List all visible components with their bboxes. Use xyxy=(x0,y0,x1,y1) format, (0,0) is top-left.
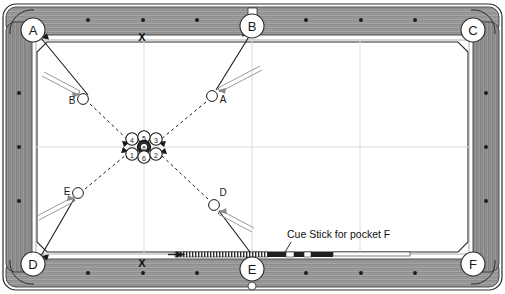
ball-label-d: D xyxy=(219,187,226,198)
ball-label-b: B xyxy=(69,95,76,106)
pocket-label-b: B xyxy=(248,19,257,34)
ball-number-2: 2 xyxy=(154,152,158,159)
pocket-label-d: D xyxy=(28,257,37,272)
ball-2[interactable]: 2 xyxy=(150,148,162,160)
cue-stick-annotation: Cue Stick for pocket F xyxy=(287,228,390,240)
ball-3[interactable]: 3 xyxy=(150,133,162,145)
ball-number-3: 3 xyxy=(154,137,158,144)
ball-label-e: E xyxy=(64,186,71,197)
rail-mark-top: X xyxy=(138,31,146,43)
ball-6[interactable]: 6 xyxy=(138,151,150,163)
pocket-label-f: F xyxy=(469,257,477,272)
ball-label-a: A xyxy=(220,94,227,105)
ball-4[interactable]: 4 xyxy=(126,133,138,145)
pocket-label-a: A xyxy=(29,23,38,38)
ball-number-6: 6 xyxy=(142,155,146,162)
ball-1[interactable]: 1 xyxy=(126,148,138,160)
pool-table-diagram: A B C D E F X X xyxy=(0,0,505,294)
pocket-label-c: C xyxy=(468,23,477,38)
ball-number-1: 1 xyxy=(130,152,134,159)
ball-number-4: 4 xyxy=(130,137,134,144)
rail-mark-bottom: X xyxy=(138,257,146,269)
pocket-label-e: E xyxy=(248,262,257,277)
